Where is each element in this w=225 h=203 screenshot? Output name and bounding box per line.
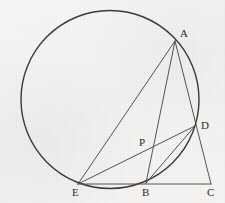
circumscribed-circle [21, 11, 199, 189]
geometry-figure: A D C B E P [0, 0, 225, 203]
geometry-canvas [0, 0, 225, 203]
segment-E-D [78, 126, 195, 184]
segment-A-C [175, 41, 211, 184]
segment-B-D [146, 126, 195, 183]
circle-layer [21, 11, 199, 189]
point-label-E: E [72, 187, 79, 198]
point-label-C: C [207, 187, 215, 198]
point-label-A: A [180, 28, 188, 39]
point-label-P: P [139, 137, 145, 148]
point-label-D: D [201, 120, 209, 131]
point-label-B: B [142, 187, 150, 198]
